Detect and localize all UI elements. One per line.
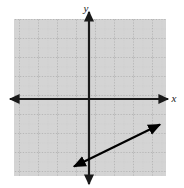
- coordinate-plane-figure: y x: [0, 0, 184, 188]
- y-axis-label: y: [83, 2, 89, 14]
- x-axis-label: x: [171, 92, 177, 104]
- graph-canvas: y x: [0, 0, 184, 188]
